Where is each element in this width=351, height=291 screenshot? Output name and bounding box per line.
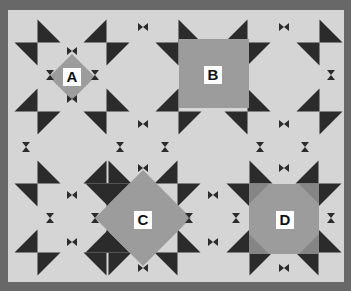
star-point-triangle-icon: [109, 253, 132, 276]
star-point-triangle-icon: [107, 43, 130, 66]
star-point-triangle-icon: [86, 230, 109, 253]
star-point-triangle-icon: [319, 184, 342, 207]
bowtie-icon: [279, 164, 284, 172]
quilt-diagram: [8, 10, 344, 282]
star-point-triangle-icon: [248, 89, 271, 112]
bowtie-icon: [67, 47, 72, 55]
hourglass-icon: [46, 213, 54, 218]
bowtie-icon: [284, 23, 289, 31]
bowtie-icon: [72, 47, 77, 55]
hourglass-icon: [301, 142, 309, 147]
star-point-triangle-icon: [297, 43, 320, 66]
hourglass-icon: [256, 147, 264, 152]
star-point-triangle-icon: [15, 43, 38, 66]
star-point-triangle-icon: [84, 253, 107, 276]
bowtie-icon: [143, 23, 148, 31]
star-point-triangle-icon: [250, 253, 273, 276]
hourglass-icon: [116, 147, 124, 152]
hourglass-icon: [232, 218, 240, 223]
star-point-triangle-icon: [296, 161, 319, 184]
quilt-panel: A B C D: [8, 10, 344, 282]
shape-label-b: B: [204, 66, 222, 84]
hourglass-icon: [22, 147, 30, 152]
star-point-triangle-icon: [155, 253, 178, 276]
bowtie-icon: [138, 23, 143, 31]
star-point-triangle-icon: [156, 89, 179, 112]
hourglass-icon: [116, 142, 124, 147]
hourglass-icon: [301, 147, 309, 152]
picture-frame: A B C D: [0, 0, 351, 291]
bowtie-icon: [72, 191, 77, 199]
hourglass-icon: [327, 218, 335, 223]
bowtie-icon: [67, 191, 72, 199]
star-point-triangle-icon: [15, 184, 38, 207]
star-point-triangle-icon: [179, 112, 202, 135]
hourglass-icon: [161, 142, 169, 147]
star-point-triangle-icon: [248, 43, 271, 66]
hourglass-icon: [161, 147, 169, 152]
hourglass-icon: [327, 70, 335, 75]
bowtie-icon: [67, 238, 72, 246]
star-point-triangle-icon: [107, 89, 130, 112]
star-point-triangle-icon: [296, 253, 319, 276]
shape-label-a: A: [63, 68, 81, 86]
star-point-triangle-icon: [86, 184, 109, 207]
star-point-triangle-icon: [38, 253, 61, 276]
star-point-triangle-icon: [84, 112, 107, 135]
star-point-triangle-icon: [38, 20, 61, 43]
bowtie-icon: [279, 120, 284, 128]
star-point-triangle-icon: [320, 20, 343, 43]
star-point-triangle-icon: [297, 89, 320, 112]
hourglass-icon: [22, 142, 30, 147]
shape-label-d: D: [276, 211, 294, 229]
star-point-triangle-icon: [178, 184, 201, 207]
bowtie-icon: [279, 264, 284, 272]
bowtie-icon: [279, 23, 284, 31]
bowtie-icon: [284, 120, 289, 128]
hourglass-icon: [232, 213, 240, 218]
star-point-triangle-icon: [15, 89, 38, 112]
star-point-triangle-icon: [38, 112, 61, 135]
bowtie-icon: [208, 191, 213, 199]
star-point-triangle-icon: [155, 161, 178, 184]
star-point-triangle-icon: [319, 230, 342, 253]
hourglass-icon: [256, 142, 264, 147]
star-point-triangle-icon: [15, 230, 38, 253]
star-point-triangle-icon: [109, 161, 132, 184]
shape-label-c: C: [134, 211, 152, 229]
star-point-triangle-icon: [320, 112, 343, 135]
star-point-triangle-icon: [250, 161, 273, 184]
bowtie-icon: [138, 120, 143, 128]
hourglass-icon: [327, 75, 335, 80]
star-point-triangle-icon: [225, 112, 248, 135]
bowtie-icon: [208, 238, 213, 246]
bowtie-icon: [213, 191, 218, 199]
star-point-triangle-icon: [38, 161, 61, 184]
star-point-triangle-icon: [84, 161, 107, 184]
bowtie-icon: [213, 238, 218, 246]
star-point-triangle-icon: [84, 20, 107, 43]
star-point-triangle-icon: [178, 230, 201, 253]
hourglass-icon: [327, 213, 335, 218]
star-point-triangle-icon: [156, 43, 179, 66]
bowtie-icon: [72, 238, 77, 246]
bowtie-icon: [143, 120, 148, 128]
star-point-triangle-icon: [227, 184, 250, 207]
hourglass-icon: [46, 218, 54, 223]
bowtie-icon: [284, 164, 289, 172]
star-point-triangle-icon: [227, 230, 250, 253]
bowtie-icon: [284, 264, 289, 272]
